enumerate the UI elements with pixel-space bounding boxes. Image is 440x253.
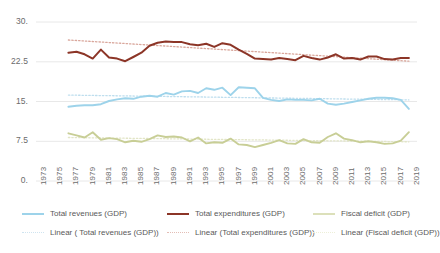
x-tick-label: 1977	[71, 167, 80, 185]
x-tick-label: 2019	[412, 167, 421, 185]
x-tick-label: 1997	[234, 167, 243, 185]
legend-swatch-icon	[313, 213, 335, 215]
x-tick-label: 1991	[185, 167, 194, 185]
chart-legend: Total revenues (GDP)Total expenditures (…	[0, 209, 423, 253]
y-tick-label: 0.	[2, 175, 28, 185]
x-tick-label: 2005	[298, 167, 307, 185]
legend-item-label: Total expenditures (GDP)	[195, 209, 285, 218]
legend-item[interactable]: Total revenues (GDP)	[22, 209, 127, 218]
x-tick-label: 1985	[136, 167, 145, 185]
x-tick-label: 2011	[347, 167, 356, 185]
x-tick-label: 2017	[396, 167, 405, 185]
y-tick-label: 22.5	[2, 56, 28, 66]
legend-item-label: Linear ( Total revenues (GDP))	[50, 228, 159, 237]
legend-swatch-icon	[167, 232, 189, 233]
legend-swatch-icon	[22, 232, 44, 233]
x-tick-label: 1973	[39, 167, 48, 185]
x-tick-label: 2003	[282, 167, 291, 185]
x-tick-label: 2013	[363, 167, 372, 185]
legend-item-label: Linear (Total expenditures (GDP))	[195, 228, 315, 237]
y-tick-label: 15.	[2, 96, 28, 106]
legend-item[interactable]: Linear (Fiscal deficit (GDP))	[313, 228, 440, 237]
legend-swatch-icon	[167, 213, 189, 215]
x-tick-label: 2015	[379, 167, 388, 185]
x-tick-label: 1989	[169, 167, 178, 185]
x-tick-label: 1975	[55, 167, 64, 185]
x-tick-label: 1983	[120, 167, 129, 185]
y-tick-label: 30.	[2, 16, 28, 26]
x-tick-label: 2007	[315, 167, 324, 185]
x-tick-label: 1981	[104, 167, 113, 185]
legend-swatch-icon	[313, 232, 335, 233]
legend-item-label: Fiscal deficit (GDP)	[341, 209, 410, 218]
x-tick-label: 1979	[88, 167, 97, 185]
x-tick-label: 2001	[266, 167, 275, 185]
x-tick-label: 1999	[250, 167, 259, 185]
series-line-1	[68, 42, 409, 62]
legend-row-series: Total revenues (GDP)Total expenditures (…	[0, 209, 423, 228]
legend-row-trendlines: Linear ( Total revenues (GDP))Linear (To…	[0, 228, 423, 247]
x-tick-label: 1987	[152, 167, 161, 185]
y-tick-label: 7.5	[2, 135, 28, 145]
legend-item[interactable]: Linear ( Total revenues (GDP))	[22, 228, 159, 237]
legend-item[interactable]: Linear (Total expenditures (GDP))	[167, 228, 315, 237]
legend-item-label: Total revenues (GDP)	[50, 209, 127, 218]
legend-item-label: Linear (Fiscal deficit (GDP))	[341, 228, 440, 237]
x-tick-label: 1993	[201, 167, 210, 185]
legend-item[interactable]: Fiscal deficit (GDP)	[313, 209, 410, 218]
x-tick-label: 2009	[331, 167, 340, 185]
legend-item[interactable]: Total expenditures (GDP)	[167, 209, 285, 218]
x-tick-label: 1995	[217, 167, 226, 185]
legend-swatch-icon	[22, 213, 44, 215]
